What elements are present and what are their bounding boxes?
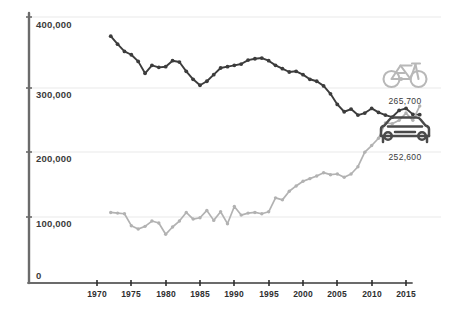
data-point-car xyxy=(356,113,360,117)
data-point-car xyxy=(287,70,291,74)
bicycle-vs-car-line-chart: 400,000 300,000 200,000 100,000 0 1970 1… xyxy=(0,0,450,316)
data-point-car xyxy=(129,53,133,57)
axes xyxy=(28,13,412,283)
data-point-bicycle xyxy=(260,212,263,215)
y-axis-label-200000: 200,000 xyxy=(36,153,72,164)
data-point-bicycle xyxy=(130,224,133,227)
data-point-car xyxy=(342,110,346,114)
data-point-car xyxy=(397,109,401,113)
bicycle-end-value-label: 265,700 xyxy=(389,96,422,106)
data-point-bicycle xyxy=(109,211,112,214)
data-point-bicycle xyxy=(253,211,256,214)
data-point-car xyxy=(136,59,140,63)
data-point-car xyxy=(239,62,243,66)
data-point-car xyxy=(322,84,326,88)
data-point-car xyxy=(281,67,285,71)
data-point-bicycle xyxy=(308,177,311,180)
y-axis-label-400000: 400,000 xyxy=(36,19,72,30)
data-point-bicycle xyxy=(267,210,270,213)
data-point-car xyxy=(363,111,367,115)
data-point-car xyxy=(123,50,127,54)
data-point-car xyxy=(226,65,230,69)
x-axis-label-2000: 2000 xyxy=(293,289,313,299)
data-point-bicycle xyxy=(143,225,146,228)
data-point-car xyxy=(150,63,154,67)
data-point-car xyxy=(109,34,113,38)
data-point-car xyxy=(191,77,195,81)
data-point-bicycle xyxy=(370,144,373,147)
x-axis-label-1970: 1970 xyxy=(87,289,107,299)
data-point-car xyxy=(329,92,333,96)
data-point-car xyxy=(308,77,312,81)
data-point-bicycle xyxy=(281,198,284,201)
data-point-car xyxy=(267,59,271,63)
data-point-car xyxy=(164,65,168,69)
data-point-car xyxy=(184,69,188,73)
data-point-bicycle xyxy=(226,222,229,225)
data-point-car xyxy=(315,79,319,83)
data-point-bicycle xyxy=(157,221,160,224)
x-axis-label-1995: 1995 xyxy=(259,289,279,299)
data-point-bicycle xyxy=(329,173,332,176)
x-axis-label-1985: 1985 xyxy=(190,289,210,299)
x-axis-label-2010: 2010 xyxy=(362,289,382,299)
data-point-bicycle xyxy=(274,196,277,199)
data-point-car xyxy=(246,58,250,62)
data-point-bicycle xyxy=(123,212,126,215)
data-series-layer xyxy=(109,34,422,236)
car-end-value-label: 252,600 xyxy=(389,152,422,162)
car-icon-glyph xyxy=(376,114,434,150)
data-point-car xyxy=(349,107,353,111)
y-axis-label-100000: 100,000 xyxy=(36,218,72,229)
x-axis-label-1980: 1980 xyxy=(156,289,176,299)
data-point-bicycle xyxy=(191,217,194,220)
data-point-car xyxy=(198,83,202,87)
data-point-bicycle xyxy=(294,184,297,187)
data-point-bicycle xyxy=(212,219,215,222)
data-point-car xyxy=(232,63,236,67)
data-point-bicycle xyxy=(171,225,174,228)
data-point-bicycle xyxy=(219,210,222,213)
data-point-car xyxy=(301,73,305,77)
data-point-bicycle xyxy=(116,211,119,214)
data-point-car xyxy=(370,107,374,111)
x-axis-label-2005: 2005 xyxy=(327,289,347,299)
car-icon xyxy=(376,114,434,150)
data-point-car xyxy=(143,71,147,75)
series-line-car xyxy=(111,36,420,117)
bicycle-icon-glyph xyxy=(382,55,428,91)
data-point-bicycle xyxy=(137,227,140,230)
data-point-car xyxy=(253,57,257,61)
data-point-bicycle xyxy=(356,165,359,168)
data-point-bicycle xyxy=(349,172,352,175)
data-point-bicycle xyxy=(246,211,249,214)
y-axis-label-0: 0 xyxy=(36,270,41,281)
data-point-car xyxy=(212,73,216,77)
series-car xyxy=(109,34,422,119)
data-point-bicycle xyxy=(198,216,201,219)
data-point-bicycle xyxy=(336,172,339,175)
data-point-car xyxy=(219,66,223,70)
data-point-bicycle xyxy=(343,176,346,179)
data-point-car xyxy=(205,79,209,83)
data-point-car xyxy=(260,56,264,60)
data-point-car xyxy=(116,42,120,46)
data-point-bicycle xyxy=(185,211,188,214)
data-point-bicycle xyxy=(178,219,181,222)
y-axis-label-300000: 300,000 xyxy=(36,89,72,100)
data-point-bicycle xyxy=(240,213,243,216)
data-point-bicycle xyxy=(363,150,366,153)
series-bicycle xyxy=(109,104,421,236)
x-axis-label-1990: 1990 xyxy=(224,289,244,299)
x-axis-label-1975: 1975 xyxy=(121,289,141,299)
data-point-bicycle xyxy=(322,171,325,174)
data-point-car xyxy=(274,63,278,67)
data-point-car xyxy=(335,103,339,107)
data-point-bicycle xyxy=(164,233,167,236)
data-point-car xyxy=(178,60,182,64)
data-point-bicycle xyxy=(150,219,153,222)
data-point-car xyxy=(171,59,175,63)
x-axis-label-2015: 2015 xyxy=(396,289,416,299)
data-point-bicycle xyxy=(301,180,304,183)
data-point-bicycle xyxy=(233,205,236,208)
